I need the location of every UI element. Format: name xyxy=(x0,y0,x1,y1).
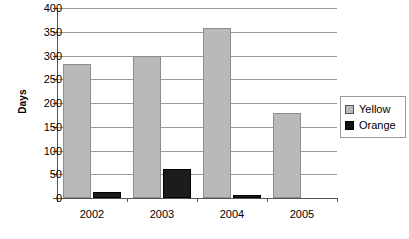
legend-label: Orange xyxy=(359,119,396,131)
bar-yellow-2005 xyxy=(273,113,301,199)
bar-chart: Days 050100150200250300350400 2002200320… xyxy=(0,0,409,239)
x-tick-mark xyxy=(127,198,128,202)
legend: YellowOrange xyxy=(340,96,406,138)
x-tick-label-2003: 2003 xyxy=(132,208,192,220)
y-tick-label: 100 xyxy=(22,145,62,157)
x-tick-mark xyxy=(197,198,198,202)
bar-yellow-2004 xyxy=(203,28,231,198)
legend-item-yellow[interactable]: Yellow xyxy=(345,103,402,115)
x-tick-mark xyxy=(267,198,268,202)
y-tick-label: 250 xyxy=(22,73,62,85)
y-tick-label: 300 xyxy=(22,50,62,62)
y-tick-label: 0 xyxy=(22,192,62,204)
gridline xyxy=(57,103,337,104)
gridline xyxy=(57,32,337,33)
y-tick-label: 150 xyxy=(22,121,62,133)
gridline xyxy=(57,56,337,57)
yellow-swatch-icon xyxy=(345,105,354,114)
legend-item-orange[interactable]: Orange xyxy=(345,119,402,131)
x-tick-label-2004: 2004 xyxy=(202,208,262,220)
gridline xyxy=(57,8,337,9)
orange-swatch-icon xyxy=(345,121,354,130)
y-tick-label: 400 xyxy=(22,2,62,14)
y-tick-label: 350 xyxy=(22,26,62,38)
x-tick-label-2002: 2002 xyxy=(62,208,122,220)
bar-orange-2002 xyxy=(93,192,121,198)
bar-orange-2003 xyxy=(163,169,191,198)
y-tick-label: 50 xyxy=(22,168,62,180)
bar-yellow-2002 xyxy=(63,64,91,198)
plot-area xyxy=(57,8,337,199)
bar-orange-2004 xyxy=(233,195,261,198)
legend-label: Yellow xyxy=(359,103,390,115)
x-tick-label-2005: 2005 xyxy=(272,208,332,220)
y-tick-label: 200 xyxy=(22,97,62,109)
x-tick-mark xyxy=(337,198,338,202)
gridline xyxy=(57,79,337,80)
bar-yellow-2003 xyxy=(133,56,161,198)
